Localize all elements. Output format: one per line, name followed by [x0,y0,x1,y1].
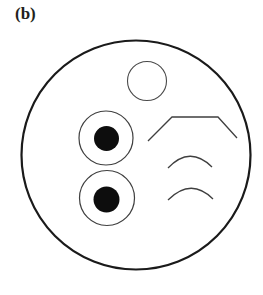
upper-arc [168,156,212,168]
figure-panel: (b) [0,0,263,295]
outer-circle [22,41,251,270]
top-open-circle [128,62,167,101]
chevron-polyline [148,117,237,141]
upper-filled-dot [94,126,119,151]
schematic-drawing [0,0,263,295]
lower-arc [168,188,213,200]
lower-filled-dot [94,187,120,213]
